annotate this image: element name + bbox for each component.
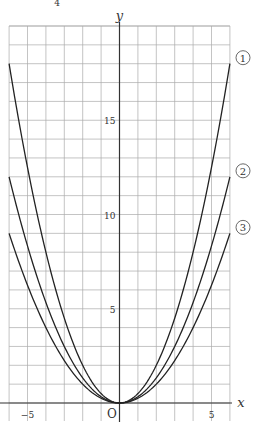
labels: 123yxO−55510154 (21, 0, 250, 421)
x-axis-label: x (237, 395, 245, 410)
x-tick-label: 5 (209, 410, 215, 420)
top-fragment: 4 (54, 0, 60, 8)
origin-label: O (107, 407, 117, 421)
curve-label: 3 (240, 222, 246, 233)
x-tick-label: −5 (21, 410, 35, 420)
curve-label: 2 (240, 166, 246, 177)
curve-label: 1 (240, 53, 246, 64)
y-axis-label: y (115, 8, 124, 23)
y-tick-label: 15 (104, 116, 116, 126)
y-tick-label: 5 (110, 305, 116, 315)
y-tick-label: 10 (104, 211, 116, 221)
parabola-chart: 123yxO−55510154 (0, 0, 256, 422)
axes (0, 22, 232, 422)
